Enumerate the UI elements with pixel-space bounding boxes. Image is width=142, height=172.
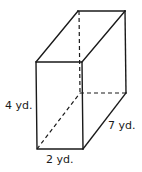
top-left-edge xyxy=(36,11,78,62)
width-label: 2 yd. xyxy=(46,153,73,166)
back-right-vertical-edge xyxy=(125,11,126,93)
front-face xyxy=(36,62,83,149)
hidden-bottom-left-depth-edge xyxy=(37,93,80,149)
depth-label: 7 yd. xyxy=(108,119,135,132)
hidden-back-left-vertical-edge xyxy=(79,11,80,93)
rectangular-prism-diagram: 4 yd. 2 yd. 7 yd. xyxy=(0,0,142,172)
height-label: 4 yd. xyxy=(5,99,32,112)
top-right-edge xyxy=(82,11,125,62)
